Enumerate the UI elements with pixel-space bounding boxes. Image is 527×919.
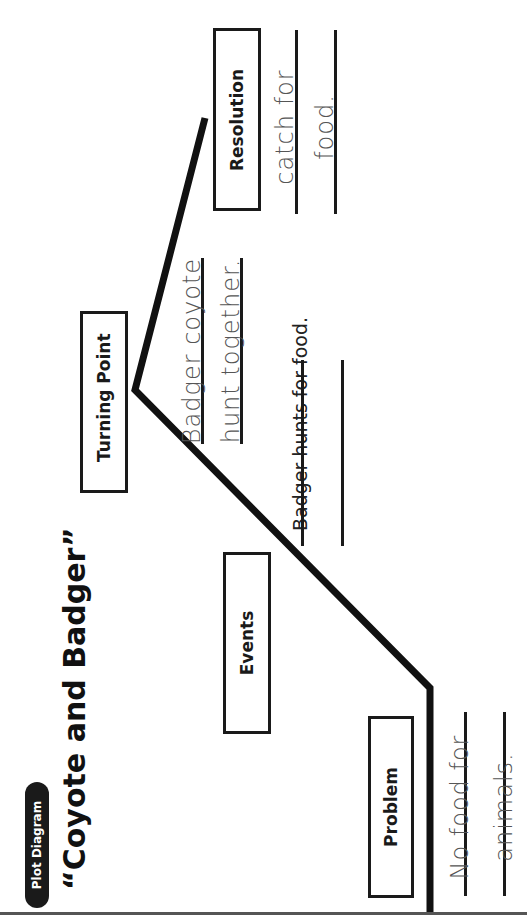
events-label: Events [234, 583, 260, 703]
resolution-answer-1[interactable]: catch for [268, 37, 302, 217]
turning-point-answer-2[interactable]: hunt together. [214, 256, 248, 446]
turning-point-answer-1[interactable]: Badger coyote [175, 256, 209, 446]
problem-label: Problem [378, 747, 404, 867]
problem-answer-2[interactable]: animals. [487, 717, 521, 897]
resolution-label: Resolution [224, 60, 250, 180]
plot-diagram-badge: Plot Diagram [25, 782, 49, 908]
events-answer-line-2 [341, 360, 344, 546]
events-prompt: Badger hunts for food. [286, 321, 314, 531]
page-title: “Coyote and Badger” [55, 550, 95, 890]
page-bottom-rule [0, 912, 527, 915]
resolution-answer-2[interactable]: food. [308, 37, 342, 217]
turning-point-label: Turning Point [91, 342, 117, 462]
problem-answer-1[interactable]: No food for [443, 717, 477, 897]
events-answer-line-1 [301, 360, 304, 546]
